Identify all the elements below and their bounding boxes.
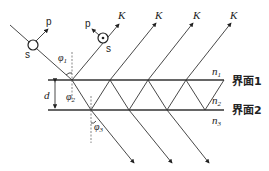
incident-s-label: s <box>25 49 30 60</box>
reflected-ray-2 <box>110 23 156 80</box>
reflected-s-dot <box>102 37 105 40</box>
thin-film-diagram: d p s φ1 φ2 p s K K K K φ3 n1 n2 n3 界面1 … <box>0 0 269 171</box>
angle-phi3: φ3 <box>94 121 104 134</box>
reflected-ray-4 <box>186 23 231 80</box>
interface-1-label: 界面1 <box>232 75 262 88</box>
n1-label: n1 <box>212 65 221 79</box>
k-label-3: K <box>192 9 201 21</box>
angle-phi2: φ2 <box>66 91 76 104</box>
angle-phi1: φ1 <box>58 52 67 65</box>
reflected-p-label: p <box>85 18 91 29</box>
interface-2-label: 界面2 <box>232 104 262 117</box>
n2-label: n2 <box>212 94 222 108</box>
incident-p-label: p <box>46 16 52 27</box>
transmitted-ray-3 <box>167 110 209 163</box>
incident-p-arrow <box>36 29 48 41</box>
reflected-ray-3 <box>148 23 193 80</box>
transmitted-ray-2 <box>129 110 172 163</box>
reflected-p-arrow <box>92 29 99 35</box>
k-label-1: K <box>117 9 126 21</box>
k-label-2: K <box>154 9 163 21</box>
internal-reflections <box>72 80 224 110</box>
reflected-s-label: s <box>106 43 111 54</box>
thickness-label: d <box>44 89 50 101</box>
angle-arc-1 <box>66 73 72 75</box>
transmitted-ray-1 <box>91 110 134 163</box>
n3-label: n3 <box>212 114 222 128</box>
k-label-4: K <box>229 9 238 21</box>
